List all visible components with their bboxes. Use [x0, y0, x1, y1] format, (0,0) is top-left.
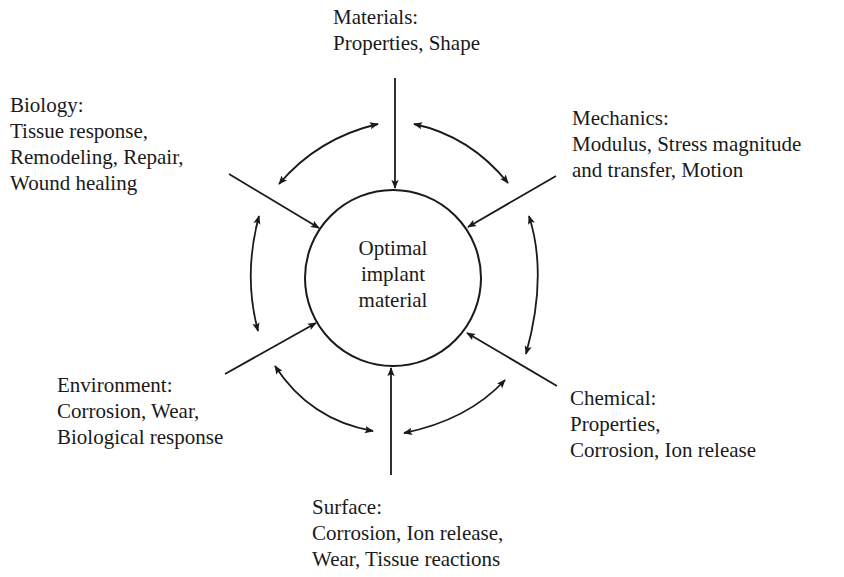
- factor-detail: Properties,: [570, 411, 756, 437]
- arrow-biology-to-center: [229, 174, 319, 228]
- center-line: Optimal: [323, 235, 463, 261]
- arrow-environment-to-center: [225, 323, 316, 374]
- factor-chemical: Chemical: Properties, Corrosion, Ion rel…: [570, 385, 756, 463]
- factor-environment: Environment: Corrosion, Wear, Biological…: [57, 372, 223, 450]
- factor-detail: Tissue response,: [10, 118, 184, 144]
- center-line: implant: [323, 261, 463, 287]
- center-line: material: [323, 287, 463, 313]
- factor-detail: Properties, Shape: [333, 30, 480, 56]
- factor-detail: Wound healing: [10, 170, 184, 196]
- factor-mechanics: Mechanics: Modulus, Stress magnitude and…: [572, 105, 801, 183]
- arrow-chemical-surface: [404, 380, 505, 433]
- factor-title: Surface:: [312, 494, 503, 520]
- arrow-surface-environment: [275, 366, 373, 431]
- factor-title: Materials:: [333, 4, 480, 30]
- factor-detail: Remodeling, Repair,: [10, 144, 184, 170]
- factor-detail: Biological response: [57, 424, 223, 450]
- factor-title: Chemical:: [570, 385, 756, 411]
- factor-materials: Materials: Properties, Shape: [333, 4, 480, 56]
- factor-biology: Biology: Tissue response, Remodeling, Re…: [10, 92, 184, 196]
- arrow-chemical-to-center: [467, 333, 557, 386]
- factor-detail: Corrosion, Wear,: [57, 398, 223, 424]
- factor-title: Biology:: [10, 92, 184, 118]
- arrow-materials-mechanics: [414, 124, 508, 183]
- factor-detail: Modulus, Stress magnitude: [572, 131, 801, 157]
- arrow-environment-biology: [251, 216, 259, 331]
- factor-detail: Corrosion, Ion release,: [312, 520, 503, 546]
- factor-surface: Surface: Corrosion, Ion release, Wear, T…: [312, 494, 503, 572]
- arrow-mechanics-to-center: [468, 176, 556, 227]
- factor-detail: Corrosion, Ion release: [570, 437, 756, 463]
- factor-title: Mechanics:: [572, 105, 801, 131]
- arrow-biology-materials: [279, 124, 378, 184]
- factor-detail: Wear, Tissue reactions: [312, 546, 503, 572]
- arrow-mechanics-chemical: [526, 216, 538, 354]
- factor-detail: and transfer, Motion: [572, 157, 801, 183]
- factor-title: Environment:: [57, 372, 223, 398]
- center-label: Optimal implant material: [323, 235, 463, 313]
